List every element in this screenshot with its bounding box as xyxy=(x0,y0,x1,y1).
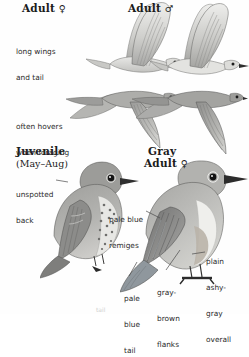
footer-cut-text: tail xyxy=(96,306,105,313)
annotation-pale-blue-remiges: pale blue remiges xyxy=(109,199,143,268)
annotation-line: pale xyxy=(124,295,140,304)
annotation-line: back xyxy=(16,217,53,226)
annotation-line: and tail xyxy=(16,74,56,83)
annotation-line: brown xyxy=(157,315,180,324)
annotation-line: gray- xyxy=(157,289,180,298)
annotation-line: remiges xyxy=(109,242,143,251)
female-symbol: ♀ xyxy=(59,3,66,14)
annotation-line: when foraging xyxy=(16,149,69,158)
heading-gray-adult-line1: Gray xyxy=(148,146,176,158)
annotation-line: often hovers xyxy=(16,123,69,132)
annotation-line: blue xyxy=(124,321,140,330)
annotation-often-hovers: often hovers when foraging xyxy=(16,106,69,175)
female-symbol-gray-adult: ♀ xyxy=(181,158,188,169)
annotation-line: ashy- xyxy=(206,284,231,293)
annotation-plain-ashy-gray-overall: plain ashy- gray overall xyxy=(206,241,231,357)
heading-gray-adult-line2: Adult ♀ xyxy=(144,158,188,170)
annotation-line: gray xyxy=(206,310,231,319)
heading-adult-male-flight: Adult ♂ xyxy=(128,3,174,15)
heading-adult-female-flight: Adult ♀ xyxy=(22,3,66,15)
annotation-pale-blue-tail: pale blue tail xyxy=(124,278,140,357)
annotation-gray-brown-flanks: gray- brown flanks xyxy=(157,272,180,357)
annotation-line: flanks xyxy=(157,341,180,350)
annotation-line: plain xyxy=(206,258,231,267)
annotation-long-wings-and-tail: long wings and tail xyxy=(16,31,56,100)
annotation-line: overall xyxy=(206,336,231,345)
annotation-line: unspotted xyxy=(16,191,53,200)
annotation-line: pale blue xyxy=(109,216,143,225)
male-symbol: ♂ xyxy=(165,3,174,14)
annotation-line: long wings xyxy=(16,48,56,57)
annotation-line: tail xyxy=(124,347,140,356)
annotation-unspotted-back: unspotted back xyxy=(16,174,53,243)
